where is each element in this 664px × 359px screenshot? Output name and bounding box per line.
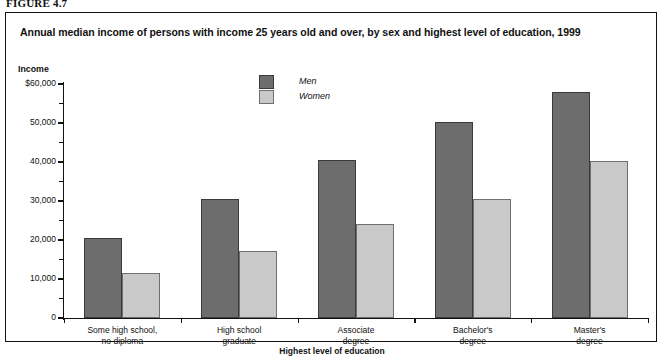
- y-tick-minor: [59, 181, 64, 182]
- x-tick: [181, 318, 182, 323]
- y-tick-label: 10,000: [0, 273, 56, 283]
- y-tick-minor: [59, 103, 64, 104]
- bar-men-4: [552, 92, 590, 318]
- category-label-4: Master'sdegree: [531, 325, 648, 346]
- x-tick: [531, 318, 532, 323]
- legend-swatch-men-icon: [259, 75, 274, 89]
- y-tick-label: $60,000: [0, 78, 56, 88]
- bar-men-3: [435, 122, 473, 318]
- y-axis-title: Income: [18, 64, 49, 74]
- bar-men-2: [318, 160, 356, 318]
- bar-women-3: [473, 199, 511, 318]
- y-tick-minor: [59, 298, 64, 299]
- y-tick-major: [58, 239, 64, 240]
- chart-legend: Men Women: [259, 74, 274, 104]
- category-label-line: Associate: [298, 325, 415, 336]
- bar-women-1: [239, 251, 277, 318]
- y-tick-minor: [59, 220, 64, 221]
- x-axis-title: Highest level of education: [0, 346, 664, 356]
- x-tick: [64, 318, 65, 323]
- y-tick-major: [58, 83, 64, 84]
- category-label-line: Master's: [531, 325, 648, 336]
- category-label-line: High school: [181, 325, 298, 336]
- y-tick-label: 50,000: [0, 117, 56, 127]
- y-tick-label: 20,000: [0, 234, 56, 244]
- x-axis-line: [63, 318, 649, 319]
- y-tick-major: [58, 122, 64, 123]
- legend-item-men: [259, 74, 274, 89]
- y-tick-minor: [59, 142, 64, 143]
- bar-women-4: [590, 161, 628, 318]
- y-tick-label: 30,000: [0, 195, 56, 205]
- category-label-3: Bachelor'sdegree: [414, 325, 531, 346]
- category-label-line: degree: [298, 336, 415, 347]
- legend-item-women: [259, 89, 274, 104]
- category-label-2: Associatedegree: [298, 325, 415, 346]
- bar-men-1: [201, 199, 239, 318]
- y-tick-label: 0: [0, 312, 56, 322]
- y-tick-minor: [59, 259, 64, 260]
- y-tick-major: [58, 278, 64, 279]
- y-tick-major: [58, 200, 64, 201]
- x-tick: [648, 318, 649, 323]
- x-tick: [298, 318, 299, 323]
- y-tick-major: [58, 161, 64, 162]
- category-label-line: graduate: [181, 336, 298, 347]
- chart-title: Annual median income of persons with inc…: [20, 26, 581, 38]
- category-label-line: Some high school,: [64, 325, 181, 336]
- legend-label-women: Women: [299, 89, 330, 104]
- bar-men-0: [84, 238, 122, 318]
- legend-label-men: Men: [299, 74, 330, 89]
- category-label-line: degree: [531, 336, 648, 347]
- figure-label: FIGURE 4.7: [6, 0, 67, 9]
- y-tick-label: 40,000: [0, 156, 56, 166]
- bar-women-0: [122, 273, 160, 318]
- category-label-0: Some high school,no diploma: [64, 325, 181, 346]
- category-label-1: High schoolgraduate: [181, 325, 298, 346]
- category-label-line: Bachelor's: [414, 325, 531, 336]
- legend-swatch-women-icon: [259, 90, 274, 104]
- bar-women-2: [356, 224, 394, 318]
- category-label-line: degree: [414, 336, 531, 347]
- x-tick: [414, 318, 415, 323]
- category-label-line: no diploma: [64, 336, 181, 347]
